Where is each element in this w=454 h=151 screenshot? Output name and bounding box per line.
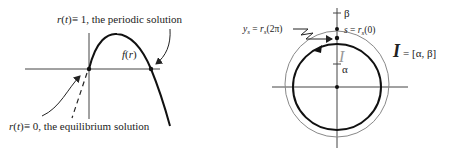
periodic-solution-label: r(t)≡ 1, the periodic solution (57, 13, 183, 26)
equilibrium-point (87, 67, 91, 71)
ys-label: ys = rs(2π) (242, 24, 282, 36)
s-label: s = rs(0) (344, 25, 375, 37)
periodic-arrow (156, 29, 170, 64)
right-figure: I β α s = rs(0) ys = rs(2π) I= [α, β] (242, 7, 436, 148)
figure-canvas: r(t)≡ 1, the periodic solution r(t)≡ 0, … (0, 0, 454, 151)
left-figure: r(t)≡ 1, the periodic solution r(t)≡ 0, … (9, 13, 183, 133)
ys-point (335, 36, 339, 40)
f-r-label: f(r) (122, 48, 137, 61)
interval-definition: I= [α, β] (392, 41, 436, 61)
beta-label: β (344, 7, 350, 19)
equilibrium-solution-label: r(t)≡ 0, the equilibrium solution (9, 120, 150, 133)
s-point (335, 27, 339, 31)
dashed-line (72, 73, 87, 118)
alpha-label: α (342, 63, 348, 75)
origin-point (335, 85, 339, 89)
periodic-point (149, 67, 153, 71)
